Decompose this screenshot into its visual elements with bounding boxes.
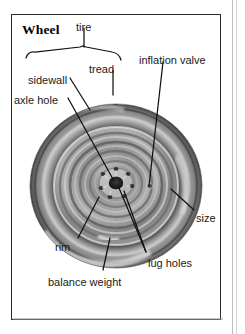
label-lug-holes: lug holes: [148, 258, 192, 269]
label-inflation-valve: inflation valve: [139, 55, 206, 66]
label-tire: tire: [76, 22, 91, 33]
label-rim: rim: [55, 242, 70, 253]
figure-title: Wheel: [22, 22, 60, 38]
label-axle-hole: axle hole: [14, 95, 58, 106]
wheel-figure: Wheel tire tread sidewall inflation valv…: [0, 0, 245, 334]
label-size: size: [196, 213, 216, 224]
label-sidewall: sidewall: [28, 75, 67, 86]
leader-sidewall: [70, 78, 90, 110]
label-balance-weight: balance weight: [48, 277, 121, 288]
diagram-overlay: [0, 0, 245, 334]
label-tread: tread: [89, 64, 114, 75]
brace-tire: [26, 46, 121, 60]
